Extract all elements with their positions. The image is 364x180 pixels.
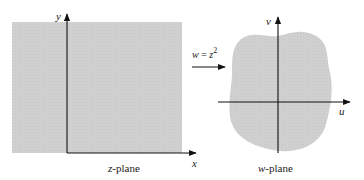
w-plane-caption: w-plane [258,162,293,174]
z-plane-caption-rest: -plane [112,162,140,174]
w-plane-caption-rest: -plane [265,162,293,174]
w-plane-panel: v u w-plane [218,15,350,174]
w-plane-v-axis-label: v [266,15,271,27]
conformal-map-diagram: y x z-plane w = z2 v u w-plane [0,0,364,180]
mapping-label-eq: = [199,49,210,60]
w-plane-region [229,32,331,152]
z-plane-panel: y x z-plane [12,10,197,174]
mapping-label: w = z2 [192,46,217,60]
z-plane-region [12,22,182,153]
w-plane-u-axis-label: u [339,105,345,117]
z-plane-caption: z-plane [107,162,140,174]
z-plane-y-axis-label: y [55,10,61,22]
mapping-arrow-group: w = z2 [192,46,225,67]
z-plane-x-axis-label: x [191,157,197,169]
mapping-label-exponent: 2 [213,46,217,55]
